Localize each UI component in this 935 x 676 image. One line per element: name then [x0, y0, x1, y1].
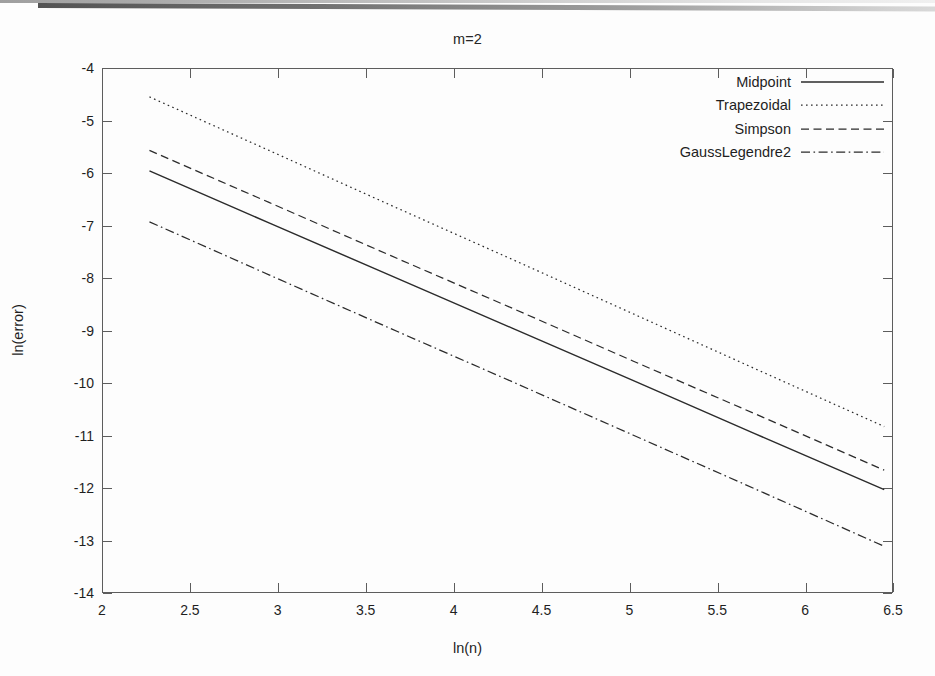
- x-tick-mark: [718, 583, 719, 592]
- chart-figure: m=2 ln(error) ln(n) -4-5-6-7-8-9-10-11-1…: [0, 0, 935, 676]
- x-tick-label: 2.5: [160, 602, 220, 618]
- legend-label: GaussLegendre2: [680, 144, 800, 160]
- y-tick-mark: [883, 593, 892, 594]
- x-tick-mark: [542, 583, 543, 592]
- y-tick-label: -9: [34, 323, 94, 339]
- y-tick-mark: [103, 436, 112, 437]
- y-tick-mark: [883, 383, 892, 384]
- y-tick-label: -7: [34, 218, 94, 234]
- y-tick-label: -14: [34, 585, 94, 601]
- x-tick-mark: [278, 583, 279, 592]
- x-tick-mark: [542, 69, 543, 78]
- y-tick-mark: [883, 226, 892, 227]
- x-tick-label: 3: [248, 602, 308, 618]
- legend-line-sample: [800, 146, 885, 158]
- y-axis-label: ln(error): [10, 304, 26, 356]
- y-tick-label: -11: [34, 428, 94, 444]
- x-tick-mark: [366, 69, 367, 78]
- legend-line-sample: [800, 76, 885, 88]
- legend-item-trapezoidal[interactable]: Trapezoidal: [560, 94, 885, 118]
- x-axis-label: ln(n): [0, 640, 935, 656]
- y-tick-mark: [883, 436, 892, 437]
- y-tick-label: -12: [34, 480, 94, 496]
- y-tick-mark: [103, 331, 112, 332]
- x-tick-mark: [366, 583, 367, 592]
- y-tick-label: -13: [34, 533, 94, 549]
- x-tick-mark: [893, 583, 894, 592]
- x-tick-mark: [806, 583, 807, 592]
- y-tick-mark: [103, 121, 112, 122]
- legend-item-gausslegendre2[interactable]: GaussLegendre2: [560, 141, 885, 165]
- y-tick-label: -8: [34, 270, 94, 286]
- y-tick-mark: [103, 278, 112, 279]
- x-tick-mark: [190, 69, 191, 78]
- y-tick-mark: [103, 173, 112, 174]
- x-tick-label: 4.5: [511, 602, 571, 618]
- y-tick-label: -5: [34, 113, 94, 129]
- x-tick-mark: [630, 583, 631, 592]
- x-tick-mark: [102, 69, 103, 78]
- chart-legend: MidpointTrapezoidalSimpsonGaussLegendre2: [560, 70, 885, 164]
- chart-title: m=2: [0, 31, 935, 47]
- y-tick-mark: [103, 593, 112, 594]
- x-tick-mark: [454, 583, 455, 592]
- legend-item-midpoint[interactable]: Midpoint: [560, 70, 885, 94]
- x-tick-mark: [102, 583, 103, 592]
- y-tick-mark: [103, 383, 112, 384]
- x-tick-label: 5.5: [687, 602, 747, 618]
- x-tick-label: 3.5: [336, 602, 396, 618]
- x-tick-label: 6: [775, 602, 835, 618]
- y-tick-label: -6: [34, 165, 94, 181]
- y-tick-mark: [883, 331, 892, 332]
- y-tick-mark: [883, 488, 892, 489]
- y-tick-mark: [883, 173, 892, 174]
- legend-label: Trapezoidal: [716, 97, 800, 113]
- x-tick-mark: [190, 583, 191, 592]
- x-tick-mark: [893, 69, 894, 78]
- legend-label: Simpson: [735, 121, 800, 137]
- legend-line-sample: [800, 99, 885, 111]
- y-tick-mark: [103, 488, 112, 489]
- y-tick-label: -4: [34, 60, 94, 76]
- y-tick-mark: [103, 541, 112, 542]
- x-tick-label: 5: [599, 602, 659, 618]
- y-tick-label: -10: [34, 375, 94, 391]
- y-tick-mark: [103, 68, 112, 69]
- y-tick-mark: [883, 278, 892, 279]
- y-tick-mark: [883, 541, 892, 542]
- legend-item-simpson[interactable]: Simpson: [560, 117, 885, 141]
- x-tick-mark: [278, 69, 279, 78]
- legend-label: Midpoint: [736, 74, 800, 90]
- legend-line-sample: [800, 123, 885, 135]
- x-tick-mark: [454, 69, 455, 78]
- x-tick-label: 4: [424, 602, 484, 618]
- x-tick-label: 6.5: [863, 602, 923, 618]
- x-tick-label: 2: [72, 602, 132, 618]
- y-tick-mark: [103, 226, 112, 227]
